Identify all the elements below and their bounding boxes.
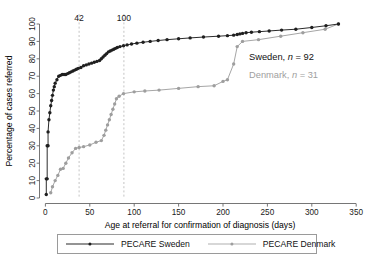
series-denmark <box>49 22 340 194</box>
series-denmark-point <box>221 80 224 83</box>
series-sweden-point <box>53 85 56 88</box>
series-sweden-point <box>310 26 313 29</box>
series-denmark-point <box>100 139 103 142</box>
series-denmark-point <box>49 191 52 194</box>
series-sweden-point <box>188 36 191 39</box>
legend-item-sweden[interactable]: PECARE Sweden <box>66 235 190 253</box>
chart-canvas: 42 100 0 10 20 30 40 50 60 70 80 90 <box>0 0 367 259</box>
series-sweden-point <box>177 37 180 40</box>
series-denmark-point <box>232 62 235 65</box>
y-tick-label-10: 10 <box>28 176 37 186</box>
chart-legend: PECARE Sweden PECARE Denmark <box>57 234 317 254</box>
x-tick-label-100: 100 <box>127 208 141 217</box>
series-denmark-point <box>143 89 146 92</box>
x-axis: 0 50 100 150 200 250 300 350 <box>43 204 363 218</box>
series-sweden-point <box>46 144 49 147</box>
series-sweden-line <box>46 24 338 195</box>
series-denmark-point <box>111 108 114 111</box>
y-tick-label-50: 50 <box>28 106 37 116</box>
x-tick-label-150: 150 <box>172 208 186 217</box>
series-denmark-point <box>94 141 97 144</box>
series-denmark-point <box>53 179 56 182</box>
series-sweden-point <box>51 94 54 97</box>
x-tick-label-350: 350 <box>349 208 363 217</box>
series-sweden-point <box>49 104 52 107</box>
x-tick-label-300: 300 <box>305 208 319 217</box>
series-sweden-point <box>226 34 229 37</box>
series-denmark-line <box>51 24 339 193</box>
annotation-sweden-n: Sweden, n = 92 <box>249 52 314 62</box>
chart-figure: 42 100 0 10 20 30 40 50 60 70 80 90 <box>0 0 367 259</box>
series-denmark-point <box>88 143 91 146</box>
series-denmark-point <box>51 185 54 188</box>
series-sweden-point <box>141 41 144 44</box>
series-sweden <box>45 22 341 196</box>
series-denmark-point <box>102 134 105 137</box>
series-denmark-point <box>226 78 229 81</box>
series-denmark-point <box>157 88 160 91</box>
series-denmark-point <box>56 174 59 177</box>
y-tick-label-0: 0 <box>28 195 37 200</box>
series-denmark-point <box>117 95 120 98</box>
series-denmark-point <box>74 147 77 150</box>
series-denmark-point <box>109 113 112 116</box>
y-tick-label-60: 60 <box>28 89 37 99</box>
series-denmark-point <box>67 156 70 159</box>
series-sweden-point <box>165 38 168 41</box>
series-sweden-point <box>267 29 270 32</box>
series-denmark-point <box>212 84 215 87</box>
series-sweden-point <box>244 31 247 34</box>
y-axis: 0 10 20 30 40 50 60 70 80 90 100 <box>28 17 39 201</box>
series-denmark-point <box>77 146 80 149</box>
series-denmark-point <box>279 34 282 37</box>
series-sweden-point <box>50 99 53 102</box>
legend-marker-denmark-icon <box>208 239 256 249</box>
x-tick-label-50: 50 <box>85 208 95 217</box>
series-denmark-point <box>64 162 67 165</box>
series-denmark-point <box>122 92 125 95</box>
series-sweden-point <box>45 193 48 196</box>
series-denmark-point <box>177 87 180 90</box>
reference-label-100: 100 <box>117 13 132 23</box>
series-denmark-point <box>196 85 199 88</box>
y-tick-label-80: 80 <box>28 54 37 64</box>
series-sweden-point <box>250 30 253 33</box>
y-axis-title: Percentage of cases referred <box>4 55 14 166</box>
series-denmark-point <box>113 102 116 105</box>
series-denmark-point <box>82 145 85 148</box>
series-sweden-point <box>324 24 327 27</box>
series-sweden-point <box>118 45 121 48</box>
series-sweden-point <box>337 22 340 25</box>
series-sweden-point <box>47 118 50 121</box>
y-tick-label-30: 30 <box>28 141 37 151</box>
y-tick-label-100: 100 <box>28 17 37 31</box>
series-sweden-point <box>202 35 205 38</box>
annotation-denmark-n: Denmark, n = 31 <box>249 70 318 80</box>
reference-lines <box>79 14 124 198</box>
x-tick-label-200: 200 <box>216 208 230 217</box>
x-tick-label-250: 250 <box>261 208 275 217</box>
series-sweden-point <box>156 39 159 42</box>
legend-marker-sweden-icon <box>66 239 114 249</box>
series-denmark-point <box>133 90 136 93</box>
series-sweden-point <box>53 81 56 84</box>
series-sweden-point <box>148 40 151 43</box>
series-sweden-point <box>45 177 48 180</box>
series-sweden-point <box>130 42 133 45</box>
series-sweden-point <box>46 130 49 133</box>
series-denmark-point <box>104 128 107 131</box>
series-sweden-point <box>258 30 261 33</box>
series-sweden-point <box>280 28 283 31</box>
series-denmark-point <box>61 167 64 170</box>
series-sweden-point <box>135 41 138 44</box>
series-denmark-point <box>115 97 118 100</box>
series-denmark-point <box>236 45 239 48</box>
y-tick-label-70: 70 <box>28 71 37 81</box>
legend-item-denmark[interactable]: PECARE Denmark <box>208 235 336 253</box>
series-denmark-point <box>108 118 111 121</box>
series-sweden-point <box>232 33 235 36</box>
y-tick-label-20: 20 <box>28 158 37 168</box>
series-sweden-point <box>122 44 125 47</box>
series-denmark-point <box>70 151 73 154</box>
series-denmark-point <box>257 38 260 41</box>
